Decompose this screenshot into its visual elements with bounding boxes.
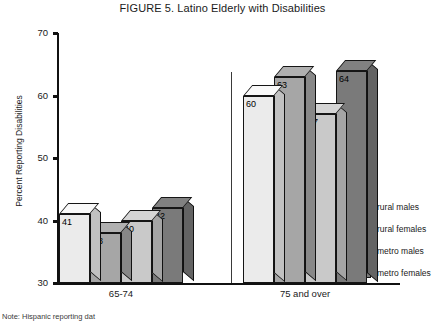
y-axis-tick-mark [53,95,58,98]
bar-value-label: 60 [246,100,256,109]
bar-front-face [243,96,274,284]
y-axis-tick-label: 50 [22,153,48,162]
legend-label: metro males [377,246,424,256]
y-axis-tick-mark [53,157,58,160]
bar-side-face [90,203,101,281]
bar-side-face [305,66,316,281]
x-axis-category-label: 65-74 [59,288,183,299]
bar-side-face [152,210,163,282]
legend-label: metro females [377,268,431,278]
y-axis-tick-label: 30 [22,278,48,287]
y-axis-tick-mark [53,220,58,223]
bar-side-face [183,197,194,281]
bar-side-face [336,103,347,281]
legend-label: rural females [377,224,426,234]
x-axis-line [57,283,400,285]
chart-title: FIGURE 5. Latino Elderly with Disabiliti… [0,2,445,14]
bar-value-label: 64 [339,75,349,84]
y-axis-tick-label: 60 [22,91,48,100]
y-axis-tick-mark [53,32,58,35]
legend-label: rural males [377,202,419,212]
group-separator [231,72,232,283]
y-axis-ticks: 3040506070 [20,0,48,321]
bar-value-label: 41 [62,218,72,227]
bar-column: 41 [59,203,90,283]
bar-side-face [274,85,285,282]
chart-figure: FIGURE 5. Latino Elderly with Disabiliti… [0,0,445,321]
x-axis-category-label: 75 and over [243,288,367,299]
y-axis-tick-label: 40 [22,216,48,225]
figure-footnote: Note: Hispanic reporting dat [2,312,252,321]
bar-side-face [367,60,378,282]
y-axis-tick-mark [53,282,58,285]
bar-column: 60 [243,85,274,284]
y-axis-tick-label: 70 [22,28,48,37]
